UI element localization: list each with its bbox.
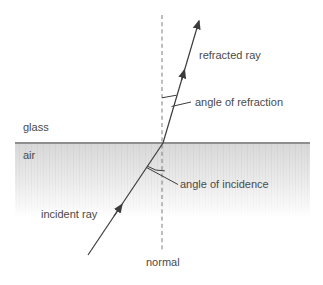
refracted-ray-label: refracted ray [199,49,261,61]
normal-label: normal [146,256,180,268]
incident-ray-label: incident ray [41,208,98,220]
angle-of-refraction-label: angle of refraction [195,96,283,108]
refraction-diagram: glass air refracted ray angle of refract… [0,0,323,285]
angle-of-incidence-label: angle of incidence [180,178,269,190]
refracted-ray-line [163,21,199,143]
air-label: air [23,149,36,161]
diagram-canvas: glass air refracted ray angle of refract… [0,0,323,285]
refracted-ray-arrow-mid [182,70,185,80]
angle-of-refraction-tick [162,95,177,98]
glass-label: glass [23,121,49,133]
